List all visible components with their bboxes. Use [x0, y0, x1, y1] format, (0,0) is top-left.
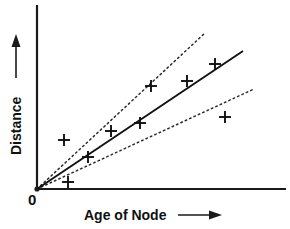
x-axis-label: Age of Node [84, 207, 167, 223]
data-point-marker [209, 58, 221, 70]
data-point-marker [105, 125, 117, 137]
figure-canvas: Distance Age of Node 0 [0, 0, 290, 229]
upper-confidence-bound-line [37, 33, 205, 189]
axes-group [34, 5, 286, 192]
confidence-bounds-group [37, 33, 254, 189]
data-point-marker [58, 134, 70, 146]
scatter-plot-figure: Distance Age of Node 0 [0, 0, 290, 229]
origin-label: 0 [28, 191, 36, 208]
lower-confidence-bound-line [37, 89, 254, 189]
arrow-right-icon [178, 211, 222, 220]
data-point-marker [134, 117, 146, 129]
arrow-up-icon [12, 34, 21, 78]
y-axis-label: Distance [8, 96, 24, 155]
data-point-marker [145, 80, 157, 92]
data-point-marker [62, 176, 74, 188]
data-point-marker [219, 111, 231, 123]
